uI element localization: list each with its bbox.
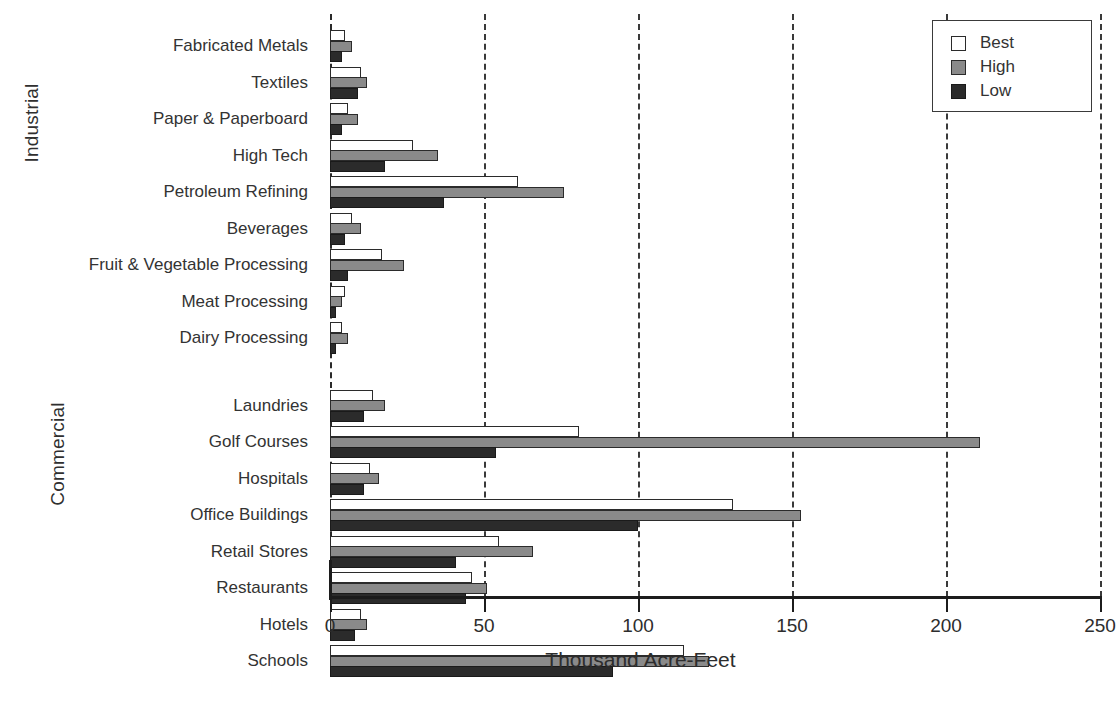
bar-best (330, 213, 352, 224)
x-tick-100 (638, 599, 640, 612)
bar-low (330, 270, 348, 281)
x-tick-label-200: 200 (930, 615, 962, 637)
bar-best (330, 286, 345, 297)
bar-high (330, 510, 801, 521)
x-tick-label-150: 150 (776, 615, 808, 637)
bar-low (330, 411, 364, 422)
bar-best (330, 140, 413, 151)
bar-high (330, 77, 367, 88)
legend-swatch-high-icon (951, 60, 966, 75)
bar-best (330, 176, 518, 187)
bar-low (330, 234, 345, 245)
bar-high (330, 223, 361, 234)
x-tick-label-50: 50 (473, 615, 494, 637)
bar-high (330, 473, 379, 484)
bar-best (330, 426, 579, 437)
category-label: Petroleum Refining (0, 183, 322, 200)
category-label: Restaurants (0, 579, 322, 596)
y-axis-line (329, 560, 332, 600)
x-tick-label-0: 0 (325, 615, 336, 637)
x-axis-line (330, 596, 1102, 599)
x-tick-label-250: 250 (1084, 615, 1116, 637)
bar-best (330, 67, 361, 78)
x-tick-150 (792, 599, 794, 612)
bar-low (330, 343, 336, 354)
category-label: Dairy Processing (0, 329, 322, 346)
bar-low (330, 557, 456, 568)
bar-best (330, 572, 472, 583)
bar-high (330, 260, 404, 271)
category-label: High Tech (0, 147, 322, 164)
category-label: Golf Courses (0, 433, 322, 450)
legend-swatch-low-icon (951, 84, 966, 99)
category-label: Hospitals (0, 470, 322, 487)
bar-low (330, 161, 385, 172)
bar-best (330, 103, 348, 114)
bar-low (330, 520, 638, 531)
category-label: Office Buildings (0, 506, 322, 523)
legend-item-high: High (951, 55, 1091, 79)
legend-label-high: High (980, 57, 1015, 77)
legend-label-best: Best (980, 33, 1014, 53)
bar-best (330, 390, 373, 401)
category-label: Retail Stores (0, 543, 322, 560)
category-label: Beverages (0, 220, 322, 237)
x-axis-title: Thousand Acre-Feet (0, 648, 1111, 672)
bar-high (330, 583, 487, 594)
bar-high (330, 150, 438, 161)
legend-item-low: Low (951, 79, 1091, 103)
x-tick-250 (1100, 599, 1102, 612)
bar-high (330, 41, 352, 52)
x-tick-label-100: 100 (622, 615, 654, 637)
bar-high (330, 333, 348, 344)
bar-high (330, 114, 358, 125)
bar-best (330, 499, 733, 510)
x-tick-200 (946, 599, 948, 612)
chart-legend: Best High Low (932, 20, 1092, 112)
bar-best (330, 463, 370, 474)
category-label: Fabricated Metals (0, 37, 322, 54)
x-tick-0 (330, 599, 332, 612)
bar-high (330, 437, 980, 448)
category-label: Fruit & Vegetable Processing (0, 256, 322, 273)
bar-low (330, 197, 444, 208)
category-label: Hotels (0, 616, 322, 633)
gridline-250 (1100, 14, 1102, 597)
bar-best (330, 249, 382, 260)
bar-best (330, 30, 345, 41)
legend-label-low: Low (980, 81, 1011, 101)
bar-high (330, 546, 533, 557)
category-label: Meat Processing (0, 293, 322, 310)
x-tick-50 (484, 599, 486, 612)
bar-low (330, 447, 496, 458)
category-label: Laundries (0, 397, 322, 414)
category-label: Paper & Paperboard (0, 110, 322, 127)
bar-low (330, 484, 364, 495)
bar-low (330, 307, 336, 318)
bar-high (330, 296, 342, 307)
bar-low (330, 124, 342, 135)
category-label: Textiles (0, 74, 322, 91)
legend-item-best: Best (951, 31, 1091, 55)
legend-swatch-best-icon (951, 36, 966, 51)
bar-low (330, 51, 342, 62)
bar-best (330, 322, 342, 333)
bar-low (330, 88, 358, 99)
bar-high (330, 187, 564, 198)
bar-high (330, 400, 385, 411)
category-label-column: Fabricated MetalsTextilesPaper & Paperbo… (0, 0, 322, 706)
bar-high (330, 619, 367, 630)
bar-best (330, 536, 499, 547)
